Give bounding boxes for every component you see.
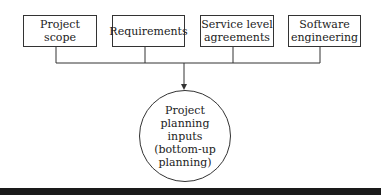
project-planning-inputs-node: Project planning inputs (bottom-up plann… xyxy=(139,90,231,182)
node-label-line4: (bottom-up xyxy=(154,143,216,156)
input-label-line1: Software xyxy=(299,18,349,31)
input-label-line2: engineering xyxy=(291,31,358,44)
input-box-software-engineering: Software engineering xyxy=(288,15,361,47)
node-label-line5: planning) xyxy=(158,156,211,169)
input-label-line2: agreements xyxy=(204,31,270,44)
node-label-line1: Project xyxy=(165,104,205,117)
input-box-requirements: Requirements xyxy=(112,15,185,47)
input-box-service-level-agreements: Service level agreements xyxy=(200,15,274,47)
node-label-line3: inputs xyxy=(168,130,203,143)
input-label: Requirements xyxy=(109,25,187,38)
input-label-line1: Service level xyxy=(201,18,272,31)
input-label: Project scope xyxy=(24,18,96,44)
input-box-project-scope: Project scope xyxy=(23,15,97,47)
node-label-line2: planning xyxy=(161,117,210,130)
bottom-border-bar xyxy=(0,188,381,195)
